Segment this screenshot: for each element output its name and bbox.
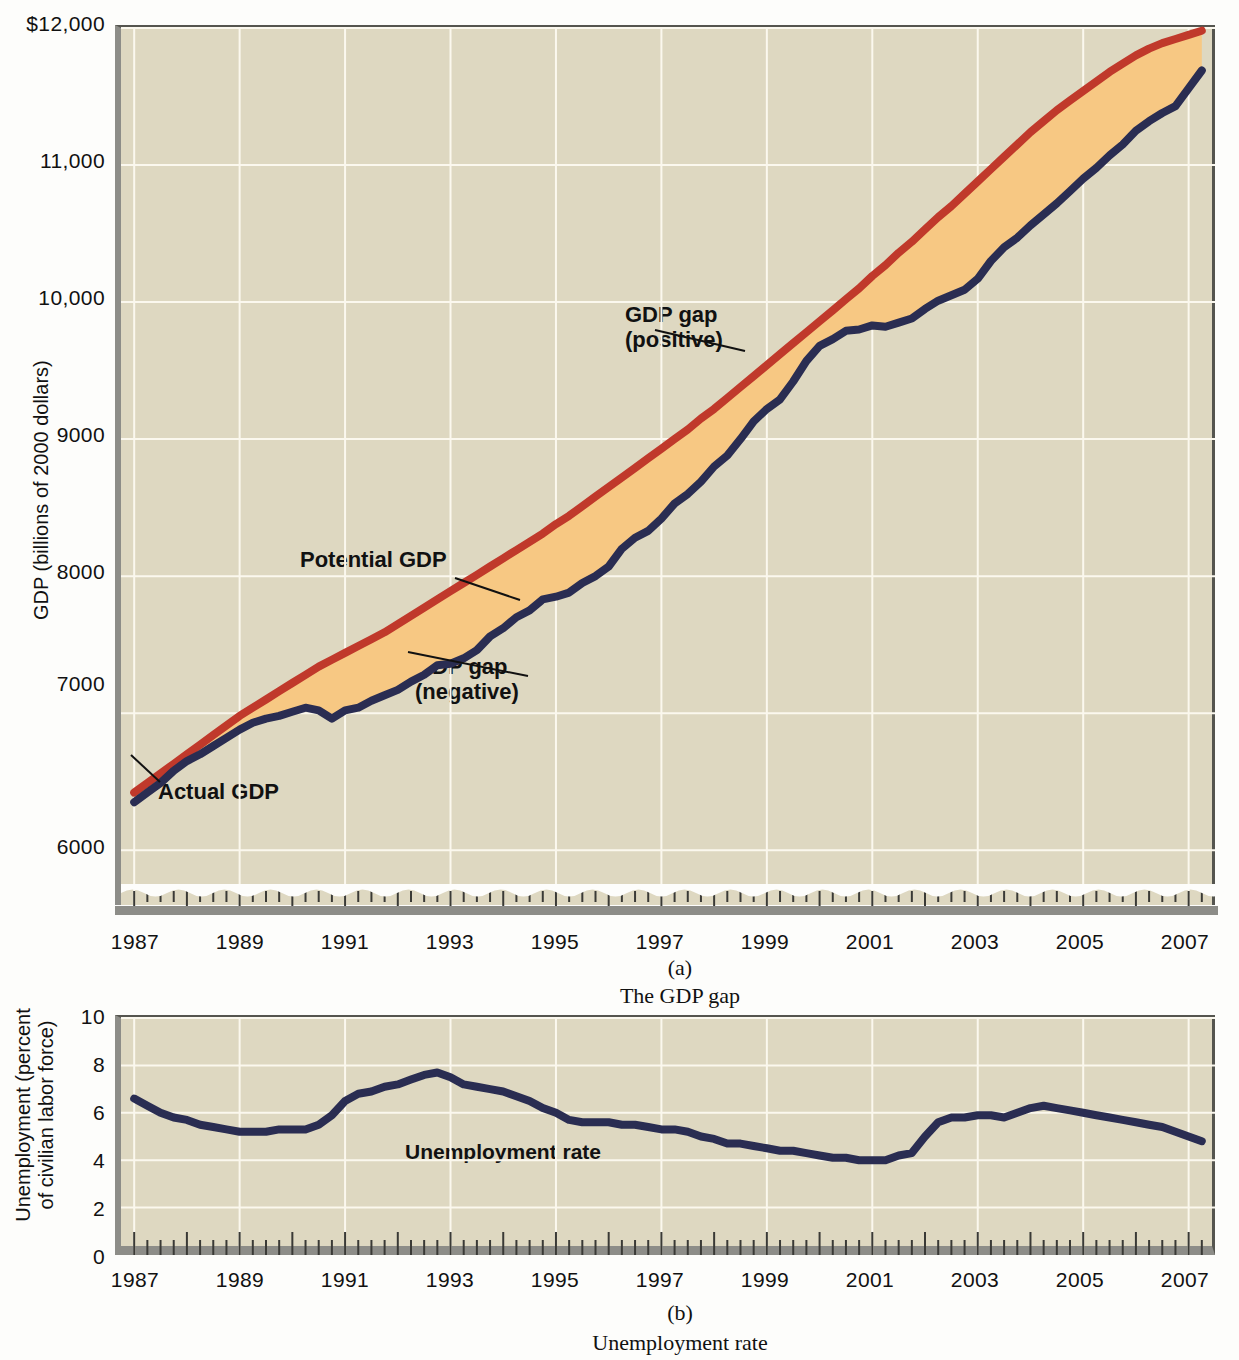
x-tick-a-10: 2007	[1145, 930, 1225, 954]
x-tick-b-5: 1997	[620, 1268, 700, 1292]
annotation-gap-negative: GDP gap (negative)	[415, 655, 519, 704]
plot-area-unemployment	[115, 1015, 1215, 1255]
x-tick-b-1: 1989	[200, 1268, 280, 1292]
x-tick-a-5: 1997	[620, 930, 700, 954]
y-tick-b-3: 4	[55, 1149, 105, 1173]
caption-a-number: (a)	[620, 955, 740, 981]
x-tick-b-2: 1991	[305, 1268, 385, 1292]
x-tick-a-7: 2001	[830, 930, 910, 954]
x-tick-a-1: 1989	[200, 930, 280, 954]
annotation-unemployment-rate: Unemployment rate	[405, 1140, 601, 1164]
y-tick-a-0: $12,000	[0, 12, 105, 36]
economics-figure: $12,000 11,000 10,000 9000 8000 7000 600…	[0, 0, 1239, 1360]
x-tick-b-9: 2005	[1040, 1268, 1120, 1292]
x-tick-b-10: 2007	[1145, 1268, 1225, 1292]
x-tick-a-3: 1993	[410, 930, 490, 954]
caption-b-number: (b)	[620, 1300, 740, 1326]
y-tick-a-2: 10,000	[0, 286, 105, 310]
x-tick-b-8: 2003	[935, 1268, 1015, 1292]
x-tick-a-2: 1991	[305, 930, 385, 954]
x-tick-a-8: 2003	[935, 930, 1015, 954]
y-axis-title-a: GDP (billions of 2000 dollars)	[30, 360, 53, 620]
annotation-gap-positive: GDP gap (positive)	[625, 303, 723, 352]
y-tick-b-2: 6	[55, 1101, 105, 1125]
x-tick-b-6: 1999	[725, 1268, 805, 1292]
x-tick-a-0: 1987	[95, 930, 175, 954]
panel-a-gdp-gap: $12,000 11,000 10,000 9000 8000 7000 600…	[0, 0, 1239, 1005]
y-tick-b-0: 10	[55, 1005, 105, 1029]
x-tick-b-4: 1995	[515, 1268, 595, 1292]
y-axis-title-b: Unemployment (percent of civilian labor …	[12, 1000, 58, 1230]
x-tick-a-6: 1999	[725, 930, 805, 954]
x-tick-b-0: 1987	[95, 1268, 175, 1292]
annotation-actual-gdp: Actual GDP	[158, 780, 279, 805]
y-tick-b-4: 2	[55, 1197, 105, 1221]
caption-b-text: Unemployment rate	[470, 1330, 890, 1356]
y-tick-a-5: 7000	[0, 672, 105, 696]
y-tick-b-1: 8	[55, 1053, 105, 1077]
y-tick-a-6: 6000	[0, 835, 105, 859]
x-tick-b-3: 1993	[410, 1268, 490, 1292]
x-tick-a-4: 1995	[515, 930, 595, 954]
annotation-potential-gdp: Potential GDP	[300, 548, 447, 573]
plot-area-gdp	[115, 25, 1215, 905]
x-tick-b-7: 2001	[830, 1268, 910, 1292]
y-tick-b-5: 0	[55, 1245, 105, 1269]
y-tick-a-1: 11,000	[0, 149, 105, 173]
x-tick-a-9: 2005	[1040, 930, 1120, 954]
